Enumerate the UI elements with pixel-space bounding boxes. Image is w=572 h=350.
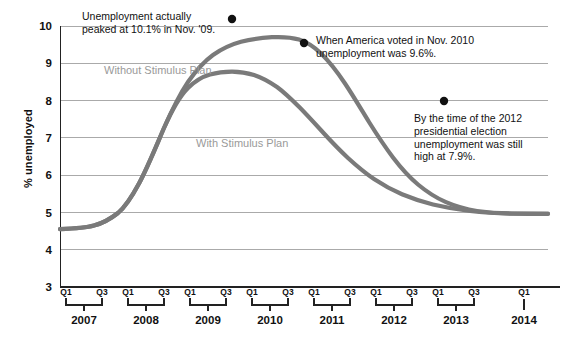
q-label-2014-q1: Q1 (514, 287, 534, 297)
q-label-2008-q1: Q1 (118, 287, 138, 297)
year-label-2011: 2011 (310, 314, 354, 326)
q-label-2009-q1: Q1 (180, 287, 200, 297)
q-label-2007-q1: Q1 (56, 287, 76, 297)
annotation-peak-2009: Unemployment actually peaked at 10.1% in… (82, 10, 215, 36)
q-label-2010-q1: Q1 (242, 287, 262, 297)
bracket-2012 (376, 298, 412, 311)
annotation-dot-peak-2009 (228, 15, 236, 23)
annotation-dot-election-2012 (440, 97, 448, 105)
q-label-2012-q3: Q3 (402, 287, 422, 297)
q-label-2011-q1: Q1 (304, 287, 324, 297)
bracket-2007 (66, 298, 102, 311)
x-axis-brackets (66, 298, 524, 311)
series-label-without-stimulus: Without Stimulus Plan (104, 64, 212, 76)
plot-canvas (0, 0, 572, 350)
year-label-2012: 2012 (372, 314, 416, 326)
q-label-2009-q3: Q3 (216, 287, 236, 297)
bracket-2008 (128, 298, 164, 311)
q-label-2012-q1: Q1 (366, 287, 386, 297)
q-label-2013-q3: Q3 (464, 287, 484, 297)
year-label-2014: 2014 (502, 314, 546, 326)
year-label-2010: 2010 (248, 314, 292, 326)
bracket-2013 (438, 298, 474, 311)
year-label-2007: 2007 (62, 314, 106, 326)
annotation-election-2010: When America voted in Nov. 2010 unemploy… (316, 34, 474, 60)
annotation-election-2012: By the time of the 2012 presidential ele… (414, 112, 523, 163)
q-label-2007-q3: Q3 (92, 287, 112, 297)
year-label-2009: 2009 (186, 314, 230, 326)
q-label-2013-q1: Q1 (428, 287, 448, 297)
bracket-2011 (314, 298, 350, 311)
year-label-2008: 2008 (124, 314, 168, 326)
q-label-2011-q3: Q3 (340, 287, 360, 297)
year-label-2013: 2013 (434, 314, 478, 326)
q-label-2010-q3: Q3 (278, 287, 298, 297)
series-label-with-stimulus: With Stimulus Plan (196, 137, 288, 149)
q-label-2008-q3: Q3 (154, 287, 174, 297)
annotation-dot-election-2010 (300, 39, 308, 47)
bracket-2010 (252, 298, 288, 311)
bracket-2009 (190, 298, 226, 311)
unemployment-chart: % unemployed 10 9 8 7 6 5 4 3 (0, 0, 572, 350)
